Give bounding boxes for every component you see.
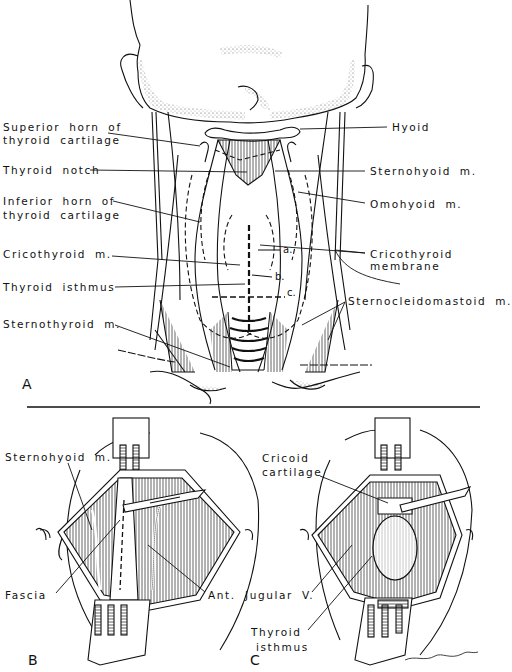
incision-marker-a: a. [283,244,292,255]
label-hyoid: Hyoid [392,121,430,134]
panel-letter-a: A [22,376,32,392]
retractor-top [113,418,149,458]
label-cricothyroid-membrane-line2: membrane [370,260,440,273]
incision-marker-c: c. [287,287,296,298]
label-inferior-horn-line2: thyroid cartilage [3,209,121,222]
artist-signature [405,652,478,660]
panel-letter-b: B [28,652,38,668]
panel-letter-c: C [250,652,260,668]
label-thyroid-isthmus-c-line1: Thyroid [251,626,302,639]
label-sternocleidomastoid-muscle: Sternocleidomastoid m. [348,295,512,308]
hyoid-bone [205,127,300,141]
label-ant: Ant. [208,589,236,602]
label-thyroid-isthmus-a: Thyroid isthmus [3,281,115,294]
label-fascia: Fascia [5,589,47,602]
label-cricoid-line2: cartilage [262,466,322,479]
panel-c-drawing [300,418,473,665]
label-cricoid-line1: Cricoid [262,452,310,465]
label-sternohyoid-muscle-b: Sternohyoid m. [5,451,112,464]
label-inferior-horn-line1: Inferior horn of [3,195,115,208]
incision-marker-b: b. [275,271,285,282]
label-superior-horn-line2: thyroid cartilage [3,134,121,147]
label-cricothyroid-muscle: Cricothyroid m. [3,248,112,261]
label-omohyoid-muscle: Omohyoid m. [370,198,462,211]
label-thyroid-notch: Thyroid notch [3,164,100,177]
label-thyroid-isthmus-c-line2: isthmus [256,641,309,654]
label-sternothyroid-muscle: Sternothyroid m. [3,318,121,331]
label-sternohyoid-muscle-a: Sternohyoid m. [370,165,477,178]
retractor-top-c [375,418,410,458]
panel-a-drawing [118,0,373,404]
label-superior-horn-line1: Superior horn of [3,121,122,134]
label-jugular-vein: Jugular V. [245,589,314,602]
